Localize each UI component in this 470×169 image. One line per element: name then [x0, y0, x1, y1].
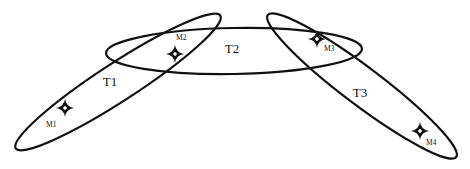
region-t2-label: T2	[225, 41, 239, 56]
marker-m4-label: M4	[426, 138, 437, 147]
marker-m3-label: M3	[324, 44, 335, 53]
marker-m1-label: M1	[46, 120, 57, 129]
region-t1-ellipse	[5, 0, 230, 164]
marker-labels: M1 M2 M3 M4	[46, 33, 437, 147]
track-diagram: T1 T2 T3 M1 M2 M3 M4	[0, 0, 470, 169]
regions	[5, 0, 467, 169]
region-t1-label: T1	[103, 74, 117, 89]
marker-m2-label: M2	[176, 33, 187, 42]
region-t3-label: T3	[353, 85, 367, 100]
